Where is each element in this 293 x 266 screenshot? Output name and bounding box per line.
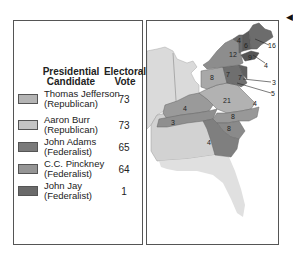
color-swatch bbox=[18, 94, 38, 104]
electoral-label: 3 bbox=[171, 119, 175, 126]
electoral-label: 8 bbox=[210, 74, 214, 81]
color-swatch bbox=[18, 120, 38, 130]
vote-column-header: Electoral Vote bbox=[103, 67, 147, 87]
candidate-label: C.C. Pinckney (Federalist) bbox=[44, 159, 104, 179]
electoral-votes: 64 bbox=[112, 164, 136, 175]
electoral-label: 7 bbox=[226, 71, 230, 78]
electoral-label: 12 bbox=[229, 51, 237, 58]
legend-panel: Presidential Candidate Electoral Vote Th… bbox=[13, 20, 143, 245]
candidate-party: (Republican) bbox=[44, 125, 98, 135]
candidate-party: (Republican) bbox=[44, 99, 120, 109]
electoral-label: 4 bbox=[207, 139, 211, 146]
electoral-votes: 65 bbox=[112, 142, 136, 153]
pointer-arrow-icon: ◀ bbox=[286, 12, 293, 22]
electoral-label: 8 bbox=[231, 113, 235, 120]
electoral-label: 9 bbox=[248, 54, 252, 61]
candidate-label: John Adams (Federalist) bbox=[44, 137, 96, 157]
electoral-label: 8 bbox=[227, 125, 231, 132]
electoral-label: 6 bbox=[244, 42, 248, 49]
electoral-votes: 73 bbox=[112, 120, 136, 131]
candidate-party: (Federalist) bbox=[44, 147, 96, 157]
electoral-votes: 73 bbox=[112, 94, 136, 105]
electoral-label: 4 bbox=[253, 100, 257, 107]
electoral-votes: 1 bbox=[112, 186, 136, 197]
color-swatch bbox=[18, 164, 38, 174]
legend-row: Thomas Jefferson (Republican) 73 bbox=[18, 89, 140, 113]
electoral-label: 4 bbox=[264, 62, 268, 69]
header-line: Vote bbox=[103, 77, 147, 87]
electoral-label: 16 bbox=[268, 42, 276, 49]
candidate-label: Aaron Burr (Republican) bbox=[44, 115, 98, 135]
electoral-label: 5 bbox=[271, 90, 275, 97]
header-line: Candidate bbox=[36, 77, 106, 87]
candidate-column-header: Presidential Candidate bbox=[36, 67, 106, 87]
legend-row: John Jay (Federalist) 1 bbox=[18, 181, 140, 205]
electoral-label: 7 bbox=[238, 74, 242, 81]
electoral-label: 4 bbox=[183, 105, 187, 112]
candidate-label: John Jay (Federalist) bbox=[44, 181, 92, 201]
election-map: 4 6 16 12 9 4 8 7 7 3 5 21 4 4 8 3 8 4 bbox=[146, 20, 279, 245]
electoral-label: 21 bbox=[223, 97, 231, 104]
florida bbox=[159, 155, 245, 217]
candidate-label: Thomas Jefferson (Republican) bbox=[44, 89, 120, 109]
color-swatch bbox=[18, 186, 38, 196]
electoral-label: 4 bbox=[237, 37, 241, 44]
candidate-party: (Federalist) bbox=[44, 169, 104, 179]
electoral-label: 3 bbox=[272, 79, 276, 86]
color-swatch bbox=[18, 142, 38, 152]
map-svg: 4 6 16 12 9 4 8 7 7 3 5 21 4 4 8 3 8 4 bbox=[147, 21, 279, 245]
candidate-party: (Federalist) bbox=[44, 191, 92, 201]
